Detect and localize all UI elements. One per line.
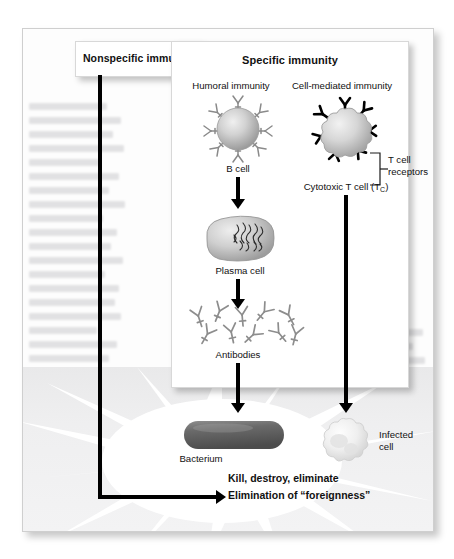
plasma-cell-to-antibodies-arrow-shaft bbox=[236, 279, 240, 301]
infected-cell-label-line1: Infected bbox=[379, 429, 434, 440]
immunity-figure: Nonspecific immunity Specific immunity H… bbox=[22, 28, 434, 532]
antibodies-caption: Antibodies bbox=[203, 349, 273, 360]
bacterium-icon bbox=[181, 417, 287, 453]
cytotoxic-t-cell-caption-close: ) bbox=[385, 181, 388, 192]
cytotoxic-t-cell-caption-main: Cytotoxic T cell (T bbox=[304, 181, 380, 192]
t-cell-receptors-label-line1: T cell bbox=[388, 154, 434, 165]
nonspecific-connector-horizontal bbox=[98, 495, 218, 499]
outcome-elimination-of-foreignness: Elimination of “foreignness” bbox=[228, 489, 370, 501]
b-cell-to-plasma-cell-arrow-shaft bbox=[236, 177, 240, 201]
infected-cell-icon bbox=[315, 413, 377, 475]
infected-cell-label-line2: cell bbox=[379, 441, 434, 452]
antibodies-icon bbox=[186, 301, 304, 353]
antibodies-to-bacterium-arrowhead bbox=[231, 403, 245, 413]
bacterium-caption: Bacterium bbox=[163, 453, 239, 464]
plasma-cell-icon bbox=[201, 213, 279, 263]
t-cell-receptors-label-line2: receptors bbox=[388, 166, 434, 177]
cell-mediated-immunity-label: Cell-mediated immunity bbox=[281, 80, 403, 91]
plasma-cell-caption: Plasma cell bbox=[201, 265, 279, 276]
cytotoxic-t-cell-caption: Cytotoxic T cell (TC) bbox=[271, 181, 421, 193]
specific-immunity-title: Specific immunity bbox=[172, 54, 408, 66]
antibodies-to-bacterium-arrow-shaft bbox=[236, 363, 240, 405]
nonspecific-arrowhead bbox=[216, 490, 226, 504]
b-cell-caption: B cell bbox=[203, 163, 273, 174]
nonspecific-connector-vertical bbox=[98, 75, 102, 499]
humoral-immunity-label: Humoral immunity bbox=[179, 80, 283, 91]
outcome-kill-destroy-eliminate: Kill, destroy, eliminate bbox=[228, 472, 339, 484]
t-cell-to-infected-cell-arrow-shaft bbox=[344, 195, 348, 405]
t-cell-to-infected-cell-arrowhead bbox=[339, 403, 353, 413]
b-cell-to-plasma-cell-arrowhead bbox=[231, 199, 245, 209]
b-cell-icon bbox=[205, 95, 271, 161]
